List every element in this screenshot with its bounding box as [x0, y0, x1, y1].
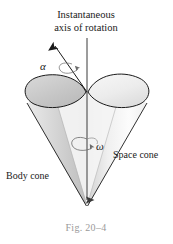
figure-container: Instantaneous axis of rotation α ω Body …	[0, 0, 173, 244]
body-and-space-cone-diagram: Instantaneous axis of rotation α ω Body …	[0, 0, 173, 244]
omega-label: ω	[96, 140, 104, 152]
alpha-angle-label: α	[40, 60, 46, 72]
title-line-2: axis of rotation	[54, 22, 118, 33]
space-cone-label: Space cone	[113, 149, 159, 160]
figure-caption: Fig. 20–4	[65, 222, 106, 233]
alpha-angle-indicator	[59, 63, 78, 73]
title-line-1: Instantaneous	[57, 9, 115, 20]
body-cone-label: Body cone	[6, 170, 50, 181]
